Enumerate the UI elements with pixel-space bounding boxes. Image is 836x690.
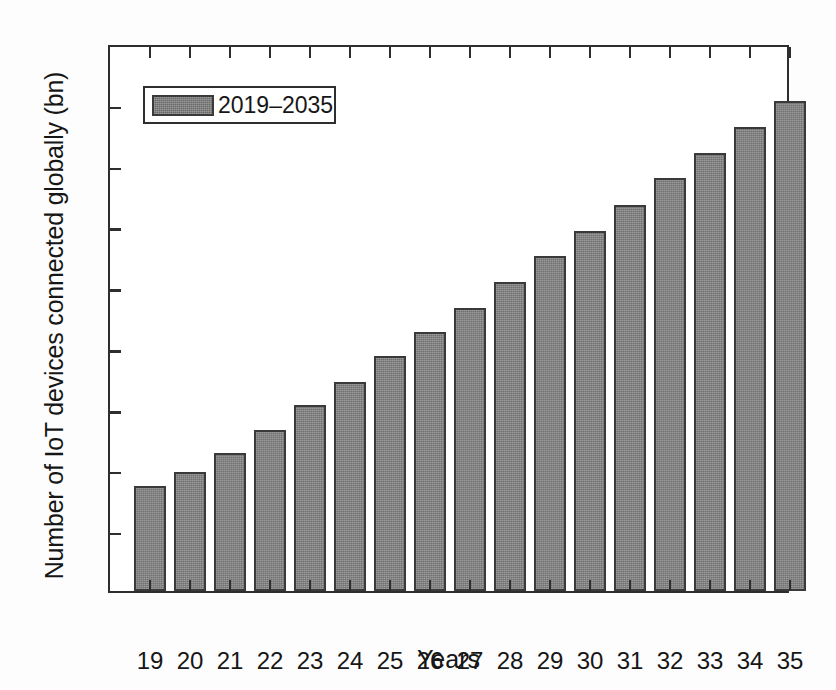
bar-19 xyxy=(134,486,166,591)
x-axis-tick xyxy=(589,47,592,58)
y-axis-tick xyxy=(110,168,121,171)
x-axis-tick xyxy=(749,47,752,58)
bar-23 xyxy=(294,405,326,591)
plot-inner: 0510152025303540451920212223242526272829… xyxy=(110,47,787,591)
x-axis-tick xyxy=(269,580,272,591)
x-axis-tick xyxy=(629,47,632,58)
x-axis-tick xyxy=(349,47,352,58)
x-axis-tick xyxy=(549,47,552,58)
x-axis-title: Years xyxy=(108,645,789,674)
plot-area: 0510152025303540451920212223242526272829… xyxy=(108,45,789,593)
x-axis-tick xyxy=(429,47,432,58)
y-axis-tick xyxy=(110,228,121,231)
legend-swatch-2019-2035 xyxy=(152,95,214,116)
x-axis-tick xyxy=(669,580,672,591)
x-axis-tick xyxy=(389,580,392,591)
bar-chart-figure: Number of IoT devices connected globally… xyxy=(0,0,836,690)
y-axis-tick xyxy=(110,411,121,414)
bar-30 xyxy=(574,231,606,591)
x-axis-tick xyxy=(589,580,592,591)
bar-28 xyxy=(494,282,526,591)
bar-32 xyxy=(654,178,686,591)
x-axis-tick xyxy=(309,47,312,58)
bar-22 xyxy=(254,430,286,591)
y-axis-title: Number of IoT devices connected globally… xyxy=(40,26,69,626)
y-axis-tick xyxy=(110,107,121,110)
x-axis-tick xyxy=(149,580,152,591)
x-axis-tick xyxy=(389,47,392,58)
x-axis-tick xyxy=(749,580,752,591)
bar-29 xyxy=(534,256,566,591)
x-axis-tick xyxy=(309,580,312,591)
x-axis-tick xyxy=(789,580,792,591)
chart-legend: 2019–2035 xyxy=(143,86,336,124)
x-axis-tick xyxy=(149,47,152,58)
x-axis-tick xyxy=(349,580,352,591)
x-axis-tick xyxy=(709,580,712,591)
x-axis-tick xyxy=(229,47,232,58)
bar-27 xyxy=(454,308,486,591)
bar-25 xyxy=(374,356,406,591)
x-axis-tick xyxy=(469,47,472,58)
x-axis-tick xyxy=(629,580,632,591)
bar-24 xyxy=(334,382,366,591)
x-axis-tick xyxy=(189,580,192,591)
x-axis-tick xyxy=(509,580,512,591)
bar-34 xyxy=(734,127,766,591)
x-axis-tick xyxy=(189,47,192,58)
bar-35 xyxy=(774,101,806,591)
x-axis-tick xyxy=(669,47,672,58)
bar-26 xyxy=(414,332,446,591)
x-axis-tick xyxy=(429,580,432,591)
x-axis-tick xyxy=(269,47,272,58)
bar-20 xyxy=(174,472,206,591)
x-axis-tick xyxy=(709,47,712,58)
y-axis-tick xyxy=(110,533,121,536)
bar-33 xyxy=(694,153,726,591)
x-axis-tick xyxy=(549,580,552,591)
legend-label-2019-2035: 2019–2035 xyxy=(218,92,333,119)
x-axis-tick xyxy=(789,47,792,58)
bar-31 xyxy=(614,205,646,591)
y-axis-tick xyxy=(110,350,121,353)
x-axis-tick xyxy=(509,47,512,58)
y-axis-tick xyxy=(110,289,121,292)
x-axis-tick xyxy=(229,580,232,591)
bar-21 xyxy=(214,453,246,591)
x-axis-tick xyxy=(469,580,472,591)
y-axis-tick xyxy=(110,472,121,475)
